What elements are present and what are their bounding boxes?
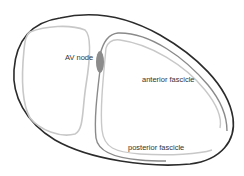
av-node-label: AV node xyxy=(65,54,93,62)
posterior-fascicle-label: posterior fascicle xyxy=(128,144,184,152)
outer-heart-outline xyxy=(14,15,234,165)
av-node-shape xyxy=(96,51,104,73)
inner-chamber-outline xyxy=(101,40,220,155)
anterior-fascicle-label: anterior fascicle xyxy=(142,76,195,84)
left-chamber-outline xyxy=(22,26,89,135)
conduction-diagram xyxy=(0,0,244,176)
